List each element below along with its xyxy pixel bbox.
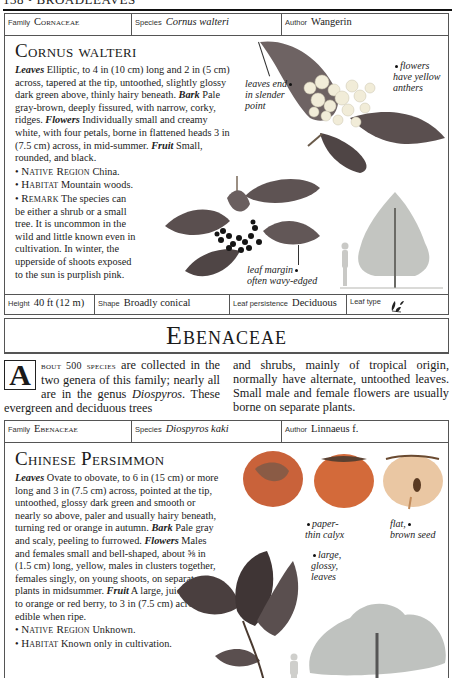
species-label: Species [135, 425, 162, 434]
leaf-type-cell: Leaf type [347, 295, 448, 315]
simple-leaf-icon [389, 299, 405, 313]
species-cell: Species Cornus walteri [132, 14, 282, 35]
caption-line: glossy, [311, 560, 338, 571]
family-label: Family [8, 18, 30, 27]
leader-line [298, 245, 299, 265]
caption-seed: flat, brown seed [390, 518, 450, 540]
species-cell: Species Diospyros kaki [132, 421, 282, 442]
bullet-key: Habitat [21, 637, 58, 649]
caption-line: anthers [393, 82, 423, 93]
caption-line: flat, [390, 518, 406, 529]
caption-leaves-end: leaves end in slender point [245, 78, 305, 111]
caption-line: leaves end [245, 78, 287, 89]
caption-flowers: flowers have yellow anthers [393, 60, 451, 93]
leaf-type-label: Leaf type [350, 297, 381, 306]
author-value: Linnaeus f. [311, 423, 358, 434]
caption-line: paper- [312, 518, 338, 529]
head-rule [3, 9, 452, 11]
family-value: Cornaceae [34, 16, 79, 27]
caption-leaves: large, glossy, leaves [311, 549, 351, 582]
bullet-key: Native Region [21, 165, 90, 177]
caption-line: flowers [400, 60, 429, 71]
family-cell: Family Ebenaceae [5, 421, 132, 442]
bullet-value: Known only in cultivation. [58, 638, 172, 649]
bullet-key: Habitat [21, 178, 58, 190]
leaf-persistence-label: Leaf persistence [233, 299, 288, 308]
family-banner: Ebenaceae [4, 318, 449, 354]
stats-row: Height 40 ft (12 m) Shape Broadly conica… [5, 294, 448, 315]
species-label: Species [135, 18, 162, 27]
bullet-value: Unknown. [90, 624, 136, 635]
height-value: 40 ft (12 m) [34, 297, 84, 308]
running-head: 138 • BROADLEAVES [3, 0, 136, 8]
leaves-key: Leaves [15, 64, 44, 75]
caption-calyx: paper- thin calyx [305, 518, 357, 540]
flowers-key: Flowers [45, 114, 79, 125]
author-cell: Author Wangerin [282, 14, 448, 35]
shape-label: Shape [98, 299, 120, 308]
author-label: Author [285, 18, 307, 27]
leaf-persistence-value: Deciduous [292, 297, 337, 308]
leaves-key: Leaves [15, 472, 44, 483]
species-value: Cornus walteri [166, 16, 229, 27]
meta-row: Family Ebenaceae Species Diospyros kaki … [5, 421, 448, 443]
bullet-key: Remark [21, 192, 58, 204]
caption-line: often wavy-edged [247, 275, 317, 286]
entry-body: Chinese Persimmon Leaves Ovate to obovat… [5, 443, 448, 678]
meta-row: Family Cornaceae Species Cornus walteri … [5, 14, 448, 36]
fruit-key: Fruit [151, 140, 173, 151]
fruit-key: Fruit [107, 585, 129, 596]
family-value: Ebenaceae [34, 423, 78, 434]
entry-title: Chinese Persimmon [15, 448, 164, 470]
species-value: Diospyros kaki [166, 423, 229, 434]
caption-line: leaf margin [247, 264, 293, 275]
tree-silhouette-illustration [335, 188, 445, 292]
human-scale-figure [288, 653, 300, 678]
caption-line: point [245, 100, 266, 111]
persimmon-tree-illustration [305, 593, 450, 678]
bullet-value: The species can be either a shrub or a s… [15, 193, 135, 280]
species-entry-persimmon: Family Ebenaceae Species Diospyros kaki … [4, 420, 449, 678]
height-label: Height [8, 299, 30, 308]
family-cell: Family Cornaceae [5, 14, 132, 35]
dropcap: A [4, 360, 36, 390]
shape-value: Broadly conical [124, 297, 191, 308]
bark-key: Bark [151, 522, 172, 533]
entry-title: Cornus walteri [15, 40, 137, 62]
caption-line: thin calyx [305, 529, 344, 540]
author-label: Author [285, 425, 307, 434]
caption-line: large, [318, 549, 341, 560]
family-intro-column-1: About 500 species are collected in the t… [4, 358, 220, 415]
bullet-value: China. [90, 166, 120, 177]
caption-leaf-margin: leaf margin often wavy-edged [247, 264, 337, 286]
bark-key: Bark [179, 89, 200, 100]
species-entry-cornus: Family Cornaceae Species Cornus walteri … [4, 13, 449, 315]
bullet-key: Native Region [21, 623, 90, 635]
shape-cell: Shape Broadly conical [95, 295, 230, 315]
intro-genus: Diospyros [132, 387, 182, 401]
caption-line: have yellow [393, 71, 440, 82]
bullet-remark: • Remark The species can be either a shr… [15, 192, 137, 281]
author-cell: Author Linnaeus f. [282, 421, 448, 442]
bullet-value: Mountain woods. [58, 179, 133, 190]
intro-lead: bout 500 species [41, 360, 116, 371]
family-label: Family [8, 425, 30, 434]
flowers-key: Flowers [144, 535, 178, 546]
family-intro-column-2: and shrubs, mainly of tropical origin, n… [233, 358, 449, 414]
caption-line: brown seed [390, 529, 435, 540]
height-cell: Height 40 ft (12 m) [5, 295, 95, 315]
entry-body: Cornus walteri Leaves Elliptic, to 4 in … [5, 36, 448, 294]
caption-line: in slender [245, 89, 285, 100]
leaf-persistence-cell: Leaf persistence Deciduous [230, 295, 347, 315]
author-value: Wangerin [311, 16, 352, 27]
persimmon-fruits-illustration [241, 447, 451, 527]
